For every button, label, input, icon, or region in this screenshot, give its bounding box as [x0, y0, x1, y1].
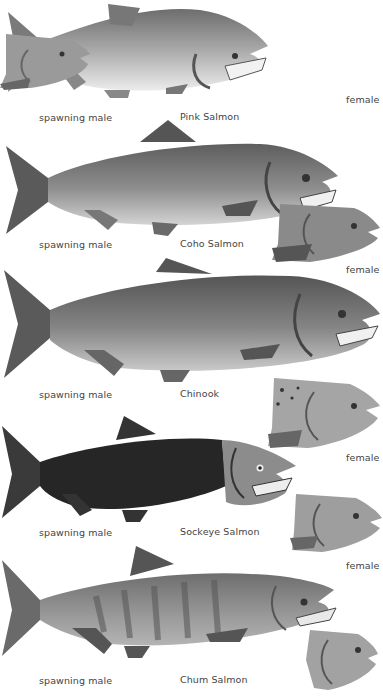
sockeye-salmon-male-illustration: [0, 414, 300, 522]
chum-salmon-species-name: Chum Salmon: [180, 674, 248, 685]
chum-salmon-female-head-illustration: [304, 630, 378, 692]
chum-salmon-male-illustration: [0, 546, 345, 666]
coho-salmon-species-name: Coho Salmon: [180, 238, 244, 249]
sockeye-salmon-species-name: Sockeye Salmon: [180, 526, 260, 537]
chinook-female-label: female: [346, 452, 379, 463]
sockeye-salmon-male-label: spawning male: [39, 527, 112, 538]
chinook-male-label: spawning male: [39, 389, 112, 400]
pink-salmon-female-head-illustration: [0, 34, 90, 92]
coho-salmon-male-label: spawning male: [39, 239, 112, 250]
chinook-species-name: Chinook: [180, 388, 219, 399]
pink-salmon-female-label: female: [346, 94, 379, 105]
chum-salmon-male-label: spawning male: [39, 675, 112, 686]
chinook-male-illustration: [0, 258, 383, 386]
coho-salmon-female-head-illustration: [270, 204, 382, 264]
sockeye-salmon-female-head-illustration: [290, 494, 382, 554]
sockeye-salmon-female-label: female: [346, 560, 379, 571]
